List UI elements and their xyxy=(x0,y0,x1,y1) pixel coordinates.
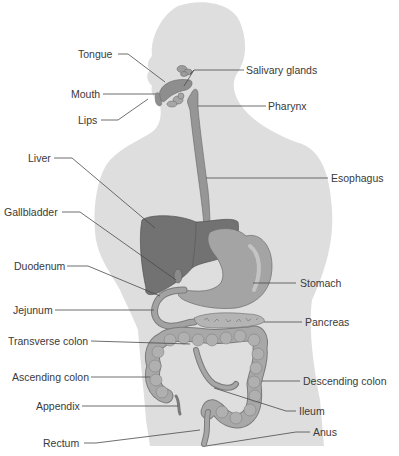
label-stomach: Stomach xyxy=(300,277,341,289)
label-transverse-colon: Transverse colon xyxy=(8,335,88,347)
label-anus: Anus xyxy=(313,426,337,438)
label-liver: Liver xyxy=(28,152,51,164)
digestive-system-diagram: Tongue Mouth Lips Salivary glands Pharyn… xyxy=(0,0,399,456)
label-jejunum: Jejunum xyxy=(13,304,53,316)
leader-lips xyxy=(101,99,148,120)
label-pharynx: Pharynx xyxy=(268,100,307,112)
label-esophagus: Esophagus xyxy=(331,172,384,184)
label-pancreas: Pancreas xyxy=(305,316,349,328)
label-lips: Lips xyxy=(78,114,97,126)
label-gallbladder: Gallbladder xyxy=(4,206,58,218)
label-ascending-colon: Ascending colon xyxy=(12,371,89,383)
anatomy-illustration xyxy=(0,0,399,456)
label-ileum: Ileum xyxy=(299,405,325,417)
label-descending-colon: Descending colon xyxy=(303,375,386,387)
label-tongue: Tongue xyxy=(78,48,112,60)
label-appendix: Appendix xyxy=(36,400,80,412)
label-rectum: Rectum xyxy=(43,437,79,449)
label-mouth: Mouth xyxy=(71,88,100,100)
label-duodenum: Duodenum xyxy=(14,260,65,272)
gallbladder xyxy=(174,269,182,283)
label-salivary-glands: Salivary glands xyxy=(246,64,317,76)
